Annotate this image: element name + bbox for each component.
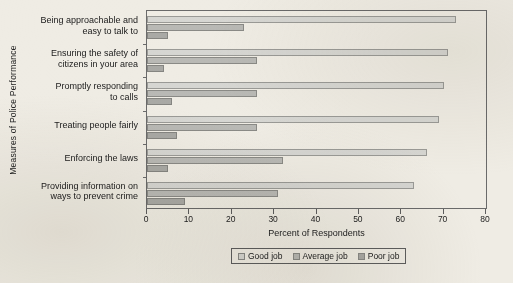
x-axis-tick-label: 50 bbox=[353, 214, 362, 224]
category-label-line: citizens in your area bbox=[58, 59, 138, 69]
x-axis-tick-label: 0 bbox=[144, 214, 149, 224]
bar-good-2 bbox=[147, 82, 444, 89]
legend-swatch-average-icon bbox=[293, 253, 300, 260]
bar-good-1 bbox=[147, 49, 448, 56]
bar-average-1 bbox=[147, 57, 257, 64]
y-axis-title: Measures of Police Performance bbox=[4, 12, 22, 208]
legend-item-poor[interactable]: Poor job bbox=[358, 251, 400, 261]
legend-label: Average job bbox=[303, 251, 348, 261]
category-label-1: Ensuring the safety ofcitizens in your a… bbox=[18, 48, 138, 69]
category-label-2: Promptly respondingto calls bbox=[18, 81, 138, 102]
legend-label: Poor job bbox=[368, 251, 400, 261]
bar-poor-0 bbox=[147, 32, 168, 39]
x-axis-tick-label: 30 bbox=[268, 214, 277, 224]
x-axis-tick-label: 60 bbox=[396, 214, 405, 224]
x-axis-tick-label: 80 bbox=[480, 214, 489, 224]
category-label-5: Providing information onways to prevent … bbox=[18, 181, 138, 202]
x-axis-tick-labels: 01020304050607080 bbox=[146, 214, 487, 226]
bar-good-5 bbox=[147, 182, 414, 189]
category-label-line: Enforcing the laws bbox=[64, 153, 138, 163]
bar-poor-3 bbox=[147, 132, 177, 139]
category-label-line: Treating people fairly bbox=[54, 120, 138, 130]
category-label-line: Being approachable and bbox=[40, 15, 138, 25]
category-label-line: ways to prevent crime bbox=[50, 191, 138, 201]
bar-good-0 bbox=[147, 16, 456, 23]
category-label-line: to calls bbox=[110, 92, 138, 102]
category-label-4: Enforcing the laws bbox=[18, 153, 138, 164]
y-axis-tick bbox=[143, 111, 147, 112]
bar-average-4 bbox=[147, 157, 283, 164]
category-label-column: Being approachable andeasy to talk toEns… bbox=[22, 10, 142, 209]
bar-average-0 bbox=[147, 24, 244, 31]
y-axis-tick bbox=[143, 77, 147, 78]
legend-item-good[interactable]: Good job bbox=[238, 251, 283, 261]
bar-poor-4 bbox=[147, 165, 168, 172]
x-axis-tick-label: 20 bbox=[226, 214, 235, 224]
plot-area bbox=[146, 10, 487, 209]
x-axis-title: Percent of Respondents bbox=[146, 228, 487, 238]
legend-swatch-good-icon bbox=[238, 253, 245, 260]
bar-good-4 bbox=[147, 149, 427, 156]
bar-average-2 bbox=[147, 90, 257, 97]
category-label-line: Ensuring the safety of bbox=[51, 48, 138, 58]
bar-average-5 bbox=[147, 190, 278, 197]
category-label-line: Promptly responding bbox=[55, 81, 138, 91]
category-label-line: Providing information on bbox=[41, 181, 138, 191]
bar-poor-2 bbox=[147, 98, 172, 105]
y-axis-tick bbox=[143, 177, 147, 178]
bar-chart: Measures of Police Performance Being app… bbox=[0, 0, 513, 283]
x-axis-tick-label: 70 bbox=[438, 214, 447, 224]
chart-legend: Good jobAverage jobPoor job bbox=[231, 248, 406, 264]
category-label-0: Being approachable andeasy to talk to bbox=[18, 15, 138, 36]
x-axis-tick-label: 10 bbox=[184, 214, 193, 224]
bar-poor-5 bbox=[147, 198, 185, 205]
bar-average-3 bbox=[147, 124, 257, 131]
y-axis-title-text: Measures of Police Performance bbox=[8, 45, 18, 174]
y-axis-tick bbox=[143, 44, 147, 45]
bar-good-3 bbox=[147, 116, 439, 123]
legend-label: Good job bbox=[248, 251, 283, 261]
legend-swatch-poor-icon bbox=[358, 253, 365, 260]
y-axis-tick bbox=[143, 144, 147, 145]
category-label-line: easy to talk to bbox=[82, 26, 138, 36]
category-label-3: Treating people fairly bbox=[18, 120, 138, 131]
x-axis-tick-label: 40 bbox=[311, 214, 320, 224]
legend-item-average[interactable]: Average job bbox=[293, 251, 348, 261]
bar-poor-1 bbox=[147, 65, 164, 72]
